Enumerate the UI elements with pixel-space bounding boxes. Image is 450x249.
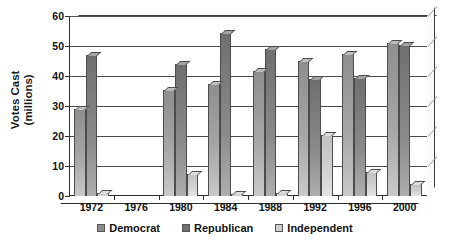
bar-democrat-1984 — [208, 84, 220, 197]
bar-democrat-1996 — [342, 54, 354, 196]
chart-legend: DemocratRepublicanIndependent — [0, 222, 450, 234]
x-tickmark — [248, 196, 249, 200]
x-tick-label: 1972 — [80, 201, 103, 213]
y-axis-title: Votes Cast (millions) — [0, 0, 44, 200]
y-tick-label: 20 — [52, 130, 64, 142]
bar-republican-1988 — [265, 49, 277, 196]
x-tickmark — [159, 196, 160, 200]
bar-independent-1972 — [97, 193, 109, 196]
bar-democrat-1988 — [253, 71, 265, 196]
bar-republican-2000 — [399, 45, 411, 197]
x-tickmark — [203, 196, 204, 200]
y-axis-title-line-2: (millions) — [22, 71, 35, 130]
legend-label: Republican — [194, 222, 253, 234]
x-tickmark — [338, 196, 339, 200]
bar-top-face — [310, 76, 324, 80]
y-tick-label: 10 — [52, 160, 64, 172]
bar-top-face — [221, 30, 235, 34]
x-tick-label: 1996 — [348, 201, 371, 213]
bars-layer — [69, 16, 427, 196]
x-tick-label: 1976 — [124, 201, 147, 213]
y-tick-label: 60 — [52, 10, 64, 22]
bar-independent-1996 — [366, 172, 378, 196]
legend-label: Independent — [287, 222, 352, 234]
bar-top-face — [355, 75, 369, 79]
bar-independent-1984 — [231, 194, 243, 196]
bar-republican-1972 — [86, 55, 98, 196]
x-tick-label: 2000 — [393, 201, 416, 213]
y-tick-label: 50 — [52, 40, 64, 52]
legend-label: Democrat — [109, 222, 160, 234]
bar-democrat-1992 — [298, 61, 310, 196]
bar-democrat-1972 — [74, 109, 86, 196]
bar-republican-1992 — [309, 79, 321, 196]
legend-swatch-icon — [97, 224, 105, 232]
bar-top-face — [232, 191, 246, 195]
bar-independent-1992 — [321, 135, 333, 196]
bar-top-face — [266, 46, 280, 50]
bar-republican-1980 — [175, 64, 187, 196]
x-tick-label: 1988 — [259, 201, 282, 213]
bar-top-face — [322, 132, 336, 136]
y-axis-tick-labels: 0102030405060 — [44, 0, 66, 249]
legend-item-independent[interactable]: Independent — [275, 222, 352, 234]
bar-top-face — [188, 171, 202, 175]
legend-swatch-icon — [275, 224, 283, 232]
y-tick-label: 30 — [52, 100, 64, 112]
bar-independent-1980 — [187, 174, 199, 197]
x-tickmark — [114, 196, 115, 200]
legend-item-republican[interactable]: Republican — [182, 222, 253, 234]
bar-top-face — [411, 181, 425, 185]
x-axis: 19721976198019841988199219962000 — [69, 196, 435, 218]
bar-top-face — [98, 190, 112, 194]
y-tick-label: 40 — [52, 70, 64, 82]
y-axis-title-line-1: Votes Cast — [9, 71, 22, 130]
bar-democrat-1980 — [163, 90, 175, 197]
bar-republican-1984 — [220, 33, 232, 197]
bar-independent-2000 — [410, 184, 422, 196]
bar-democrat-2000 — [387, 43, 399, 196]
legend-swatch-icon — [182, 224, 190, 232]
bar-top-face — [277, 190, 291, 194]
legend-item-democrat[interactable]: Democrat — [97, 222, 160, 234]
x-tick-label: 1984 — [214, 201, 237, 213]
bar-chart: Votes Cast (millions) 0102030405060 1972… — [0, 0, 450, 249]
x-axis-floor — [60, 196, 427, 204]
bar-top-face — [343, 51, 357, 55]
x-tick-label: 1992 — [303, 201, 326, 213]
bar-top-face — [388, 40, 402, 44]
x-tickmark — [293, 196, 294, 200]
plot-area — [69, 16, 427, 196]
bar-republican-1996 — [354, 78, 366, 196]
x-tick-label: 1980 — [169, 201, 192, 213]
bar-independent-1988 — [276, 193, 288, 196]
bar-top-face — [176, 61, 190, 65]
bar-top-face — [367, 169, 381, 173]
x-tickmark — [382, 196, 383, 200]
bar-top-face — [400, 42, 414, 46]
bar-top-face — [299, 58, 313, 62]
bar-top-face — [87, 52, 101, 56]
